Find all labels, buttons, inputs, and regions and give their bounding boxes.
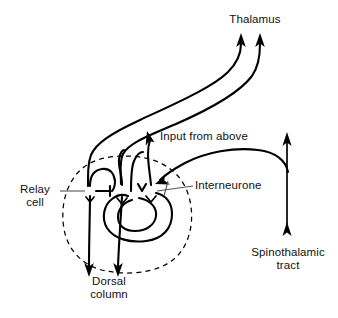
label-dorsal-column: Dorsal column: [80, 275, 138, 301]
neural-circuit-diagram: Thalamus Input from above Interneurone R…: [0, 0, 338, 318]
ascending-tract-right: [121, 44, 261, 184]
label-relay-cell: Relay cell: [10, 183, 60, 209]
label-interneurone: Interneurone: [195, 179, 285, 192]
interneurone-presynaptic-fork: [138, 184, 146, 191]
dorsal-column-tract-left: [89, 196, 90, 266]
interneurone-axon-loop: [104, 193, 172, 241]
spinothalamic-collateral-fibre: [160, 149, 288, 180]
label-input-from-above: Input from above: [160, 130, 270, 143]
afferent-fibre-arch: [131, 152, 143, 191]
label-thalamus: Thalamus: [218, 13, 292, 26]
arrow-up-icon-spinothalamic-bottom: [282, 222, 291, 236]
label-spinothalamic-tract: Spinothalamic tract: [244, 246, 332, 272]
descending-input-fibre: [148, 140, 151, 185]
relay-cell-dendrite-arch: [90, 169, 115, 191]
interneurone-leader-line: [157, 186, 193, 191]
